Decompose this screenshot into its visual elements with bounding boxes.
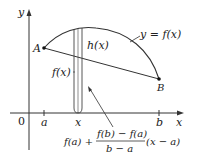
point-a — [42, 46, 46, 50]
curve-label-leader — [130, 36, 140, 42]
origin-label: 0 — [18, 115, 25, 128]
h-label: h(x) — [87, 39, 109, 52]
tick-label-a: a — [41, 116, 48, 129]
formula-numerator: f(b) − f(a) — [96, 128, 147, 139]
mean-value-diagram: y x 0 a x b A B y = f(x) h(x) f(x) f(a) … — [0, 0, 199, 167]
point-b-label: B — [156, 82, 164, 93]
tick-label-x: x — [75, 116, 82, 129]
x-axis-label: x — [176, 116, 183, 129]
formula-left: f(a) + — [63, 136, 93, 147]
tick-label-b: b — [156, 116, 163, 129]
curve-label: y = f(x) — [139, 28, 181, 41]
formula-leader — [90, 89, 113, 127]
y-axis-arrow-icon — [27, 9, 32, 16]
y-axis-label: y — [17, 6, 25, 19]
secant-formula: f(a) + f(b) − f(a) b − a (x − a) — [63, 128, 180, 154]
vertical-strip — [73, 28, 82, 113]
point-a-label: A — [32, 42, 41, 55]
point-b — [157, 77, 161, 81]
formula-denominator: b − a — [106, 143, 133, 154]
formula-right: (x − a) — [146, 136, 180, 147]
x-axis-arrow-icon — [177, 111, 184, 116]
fx-label: f(x) — [51, 66, 71, 79]
